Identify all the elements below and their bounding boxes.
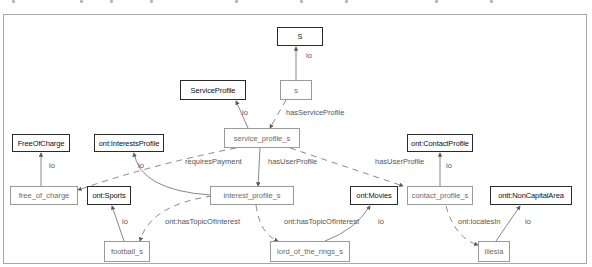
edge-label: io [49, 161, 55, 170]
node-label: contact_profile_s [412, 191, 469, 200]
node-noncapitalarea[interactable]: ontt:NonCapitalArea [490, 186, 572, 205]
edge-label: hasUserProfile [375, 157, 424, 166]
edge-label: hasServiceProfile [286, 108, 344, 117]
node-interestsprofile[interactable]: ont:InterestsProfile [94, 134, 164, 152]
node-label: illesia [485, 247, 504, 256]
edge-label: hasUserProfile [268, 157, 317, 166]
node-label: ServiceProfile [191, 86, 236, 95]
node-label: service_profile_s [234, 134, 290, 143]
node-movies[interactable]: ont:Movies [350, 186, 398, 205]
edge-label: io [122, 217, 128, 226]
node-service-profile-s[interactable]: service_profile_s [224, 128, 300, 148]
node-label: interest_profile_s [223, 191, 280, 200]
edge-service_profile_s-contact_profile_s [290, 148, 403, 186]
node-label: S [298, 32, 303, 41]
edge-label: io [525, 217, 531, 226]
node-interest-profile-s[interactable]: interest_profile_s [210, 186, 294, 205]
node-s[interactable]: S [277, 27, 323, 46]
node-illesia[interactable]: illesia [478, 241, 510, 262]
node-football-s[interactable]: football_s [104, 241, 150, 262]
node-freeofcharge[interactable]: FreeOfCharge [12, 134, 70, 152]
edge-label: requiresPayment [185, 157, 242, 166]
node-label: free_of_charge [19, 191, 69, 200]
node-label: s [294, 86, 298, 95]
edge-label: ont:hasTopicOfInterest [284, 217, 359, 226]
node-label: ont:Movies [356, 191, 391, 200]
node-label: lord_of_the_rings_s [277, 247, 343, 256]
edge-s-service_profile_s [270, 100, 286, 128]
edge-label: io [446, 161, 452, 170]
node-label: ont:ContactProfile [411, 139, 469, 148]
node-label: ont:Sports [92, 191, 125, 200]
edge-label: io [378, 217, 384, 226]
edge-label: io [242, 108, 248, 117]
edge-label: io [138, 161, 144, 170]
node-label: ontt:NonCapitalArea [498, 191, 564, 200]
node-label: ont:InterestsProfile [99, 139, 160, 148]
edge-label: io [306, 51, 312, 60]
node-s[interactable]: s [280, 80, 312, 100]
node-label: FreeOfCharge [18, 139, 65, 148]
node-serviceprofile[interactable]: ServiceProfile [180, 80, 246, 100]
edge-label: ont:hasTopicOfInterest [165, 217, 240, 226]
edge-interest_profile_s-lord_of_the_rings_s [256, 205, 278, 241]
node-contact-profile-s[interactable]: contact_profile_s [407, 186, 473, 205]
edge-label: ont:locatesIn [458, 217, 501, 226]
node-sports[interactable]: ont:Sports [87, 186, 131, 205]
node-lord-of-the-rings-s[interactable]: lord_of_the_rings_s [270, 241, 350, 262]
node-label: football_s [111, 247, 143, 256]
edge-service_profile_s-free_of_charge [78, 148, 236, 190]
node-contactprofile[interactable]: ont:ContactProfile [407, 134, 473, 152]
edge-service_profile_s-interest_profile_s [258, 148, 260, 186]
node-free-of-charge[interactable]: free_of_charge [10, 186, 78, 205]
